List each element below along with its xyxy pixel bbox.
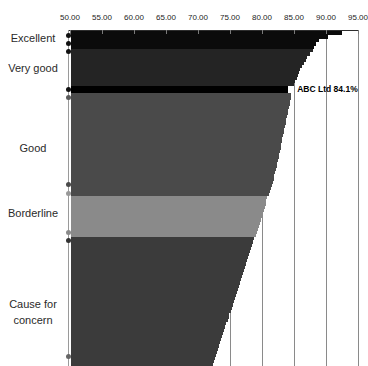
axis-tick <box>166 30 167 34</box>
band-boundary-dot <box>66 182 71 187</box>
axis-tick <box>326 30 327 34</box>
axis-tick-label: 85.00 <box>284 13 304 22</box>
left-axis-line <box>68 30 69 366</box>
band-boundary-dot <box>66 49 71 54</box>
axis-tick <box>134 30 135 34</box>
band-boundary-dot <box>66 354 71 359</box>
vertical-gridline <box>358 30 359 366</box>
axis-tick <box>198 30 199 34</box>
band-boundary-dot <box>66 230 71 235</box>
axis-tick <box>230 30 231 34</box>
benchmark-distribution-chart: 50.0055.0060.0065.0070.0075.0080.0085.00… <box>0 0 368 366</box>
axis-tick-label: 75.00 <box>220 13 240 22</box>
axis-tick-label: 55.00 <box>92 13 112 22</box>
axis-tick-label: 60.00 <box>124 13 144 22</box>
category-label: Cause for concern <box>1 297 65 329</box>
band-boundary-dot <box>66 41 71 46</box>
axis-tick-label: 95.00 <box>348 13 368 22</box>
axis-tick-label: 80.00 <box>252 13 272 22</box>
axis-tick-label: 90.00 <box>316 13 336 22</box>
band-boundary-dot <box>66 238 71 243</box>
axis-tick-label: 50.00 <box>60 13 80 22</box>
axis-tick <box>262 30 263 34</box>
band-boundary-dot <box>66 95 71 100</box>
band-boundary-dot <box>66 87 71 92</box>
axis-tick-label: 65.00 <box>156 13 176 22</box>
category-label: Borderline <box>1 206 65 222</box>
band-boundary-dot <box>66 191 71 196</box>
axis-tick <box>102 30 103 34</box>
category-label: Very good <box>1 61 65 77</box>
category-label: Excellent <box>1 31 65 47</box>
abc-ltd-annotation: ABC Ltd 84.1% <box>297 84 357 94</box>
category-label: Good <box>1 141 65 157</box>
axis-tick <box>358 30 359 34</box>
axis-tick <box>294 30 295 34</box>
axis-tick-label: 70.00 <box>188 13 208 22</box>
vertical-gridline <box>326 30 327 366</box>
top-axis-line <box>68 30 359 31</box>
band-boundary-dot <box>66 33 71 38</box>
